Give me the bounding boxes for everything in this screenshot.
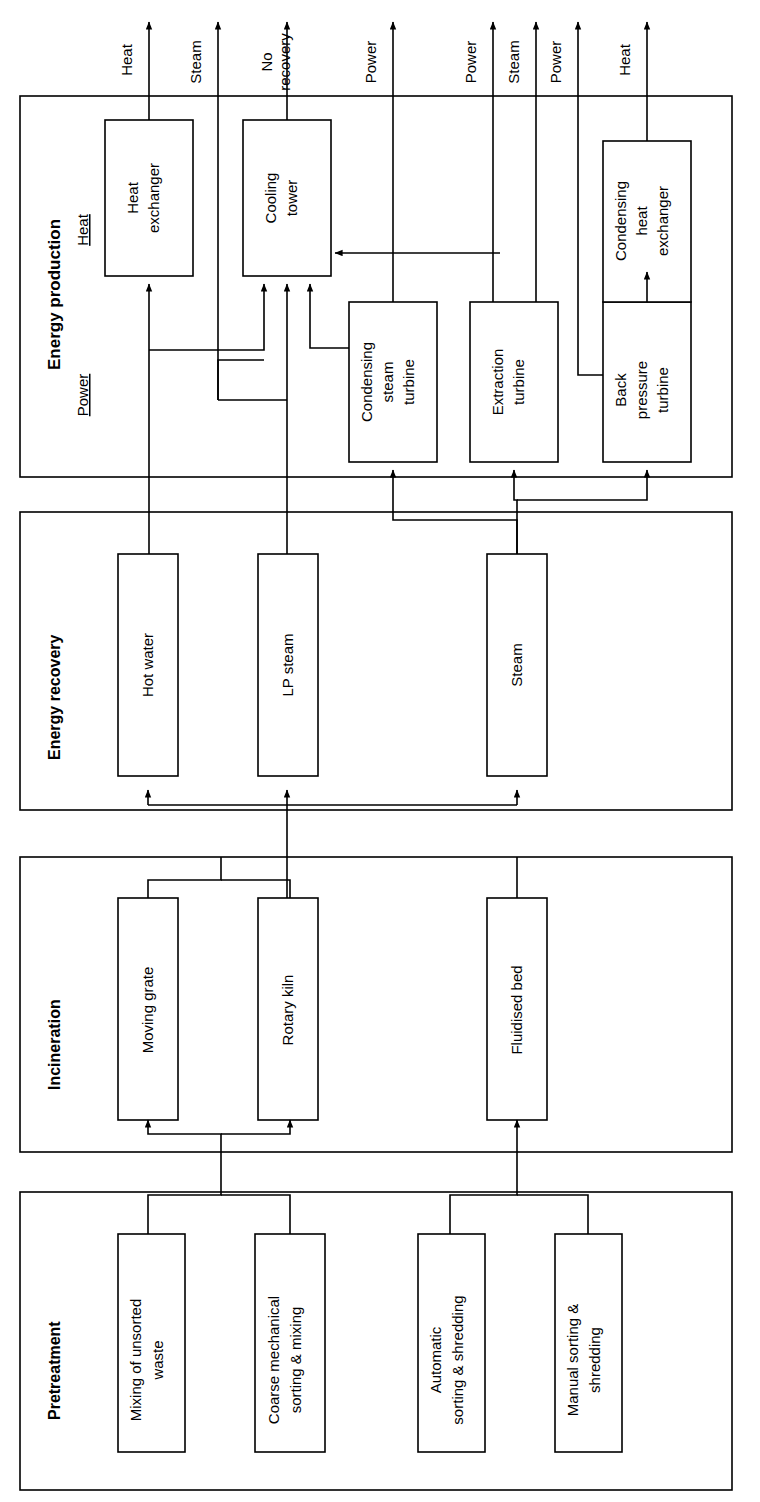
box-label-et-line1: Extraction bbox=[489, 349, 506, 416]
arrow-out-power-3 bbox=[578, 22, 603, 375]
box-label-coarse-line2: sorting & mixing bbox=[287, 1307, 304, 1414]
output-label-steam-2: Steam bbox=[505, 40, 522, 83]
box-label-bpt-line3: turbine bbox=[654, 367, 671, 413]
flow-steam-to-bpt bbox=[517, 470, 647, 500]
sublabel-power: Power bbox=[74, 374, 91, 417]
output-label-heat-1: Heat bbox=[118, 43, 135, 76]
flow-pretreat-right-bus2 bbox=[517, 1195, 588, 1234]
box-label-manual-line2: shredding bbox=[586, 1327, 603, 1393]
box-label-heat-exchanger-line2: exchanger bbox=[145, 163, 162, 233]
flow-incin-top-left-bus2 bbox=[221, 880, 290, 898]
box-label-mixing-line1: Mixing of unsorted bbox=[127, 1299, 144, 1422]
flow-lpsteam-bypass-corner bbox=[218, 360, 264, 400]
box-label-automatic-line2: sorting & shredding bbox=[449, 1295, 466, 1424]
box-label-moving-grate: Moving grate bbox=[139, 967, 156, 1054]
box-label-manual-line1: Manual sorting & bbox=[564, 1304, 581, 1417]
box-label-heat-exchanger-line1: Heat bbox=[124, 181, 141, 214]
flow-pretreat-left-bus2 bbox=[221, 1195, 290, 1234]
box-label-che-line2: heat bbox=[633, 206, 650, 236]
section-label-incineration: Incineration bbox=[46, 999, 63, 1090]
box-label-fluidised-bed: Fluidised bed bbox=[508, 965, 525, 1054]
flow-incin-left-bus bbox=[148, 1120, 221, 1152]
box-label-hot-water: Hot water bbox=[139, 633, 156, 697]
box-label-automatic-line1: Automatic bbox=[427, 1326, 444, 1393]
sublabel-heat: Heat bbox=[74, 213, 91, 246]
box-label-cst-line1: Condensing bbox=[358, 342, 375, 422]
box-label-lp-steam: LP steam bbox=[279, 633, 296, 696]
box-label-che-line1: Condensing bbox=[612, 181, 629, 261]
output-label-no-recovery-line2: recovery bbox=[276, 33, 293, 91]
box-label-cooling-tower-line2: tower bbox=[283, 180, 300, 217]
flow-cst-to-cooling-tower bbox=[310, 284, 349, 348]
box-label-bpt-line2: pressure bbox=[633, 361, 650, 419]
box-label-cst-line3: turbine bbox=[400, 359, 417, 405]
section-label-energy-production: Energy production bbox=[45, 219, 64, 370]
output-label-power-3: Power bbox=[547, 41, 564, 84]
flow-pretreat-right-bus bbox=[450, 1152, 517, 1234]
box-label-rotary-kiln: Rotary kiln bbox=[279, 975, 296, 1046]
flow-branch-to-cooling-tower-a bbox=[149, 284, 264, 350]
flow-diagram-svg: Energy production Energy recovery Incine… bbox=[0, 0, 760, 1502]
box-label-che-line3: exchanger bbox=[654, 186, 671, 256]
box-label-steam: Steam bbox=[508, 643, 525, 686]
output-label-no-recovery-line1: No bbox=[258, 52, 275, 71]
box-label-coarse-line1: Coarse mechanical bbox=[265, 1296, 282, 1424]
box-label-et-line2: turbine bbox=[510, 359, 527, 405]
output-label-power-1: Power bbox=[362, 41, 379, 84]
output-label-power-2: Power bbox=[462, 41, 479, 84]
section-label-pretreatment: Pretreatment bbox=[46, 1321, 63, 1420]
flow-incin-top-left-bus bbox=[148, 857, 221, 898]
output-label-heat-2: Heat bbox=[616, 43, 633, 76]
box-label-mixing-line2: waste bbox=[149, 1340, 166, 1380]
box-label-cooling-tower-line1: Cooling bbox=[262, 173, 279, 224]
box-label-cst-line2: steam bbox=[379, 362, 396, 403]
output-label-steam-1: Steam bbox=[187, 40, 204, 83]
section-label-energy-recovery: Energy recovery bbox=[46, 634, 63, 760]
diagram-canvas: Energy production Energy recovery Incine… bbox=[0, 0, 760, 1502]
flow-incin-left-bus2 bbox=[221, 1120, 290, 1134]
box-label-bpt-line1: Back bbox=[612, 373, 629, 407]
flow-pretreat-left-bus bbox=[148, 1152, 221, 1234]
